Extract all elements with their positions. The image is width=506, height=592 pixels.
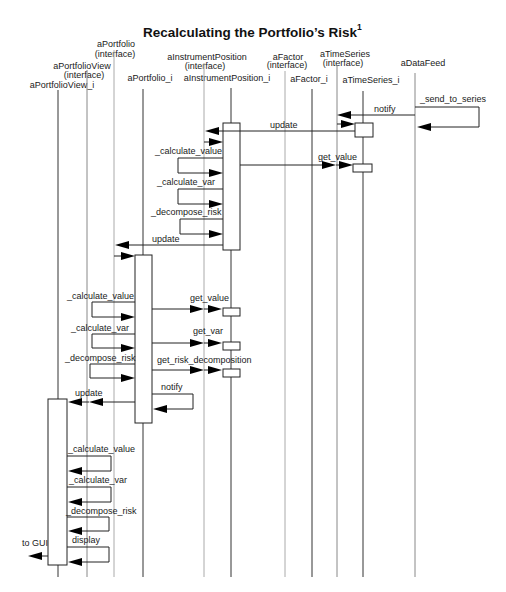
message-get-var-instrument: get_var xyxy=(152,326,223,347)
message-label: _decompose_risk xyxy=(64,353,136,363)
message-label: _calculate_value xyxy=(67,444,135,454)
message-notify-portfolio: notify xyxy=(152,382,193,413)
message-label: notify xyxy=(374,104,396,114)
message-label: _calculate_var xyxy=(68,475,127,485)
message-update-portfolioview: update xyxy=(68,388,135,406)
activation-ainstrumentposition-i xyxy=(223,123,240,250)
arrowhead-icon xyxy=(337,111,351,119)
message-label: get_var xyxy=(193,326,223,336)
arrowhead-icon xyxy=(417,123,431,131)
message-update-portfolio: update xyxy=(114,234,223,260)
message-label: _calculate_var xyxy=(156,177,215,187)
arrowhead-icon xyxy=(205,127,219,135)
message-label: _decompose_risk xyxy=(150,207,222,217)
message-label: get_risk_decomposition xyxy=(157,355,252,365)
arrowhead-icon xyxy=(68,558,82,566)
arrowhead-icon xyxy=(68,527,82,535)
lifeline-label-aportfolio: aPortfolio xyxy=(97,39,135,49)
arrowhead-icon xyxy=(209,138,223,146)
activation-atimeseries-i-notify xyxy=(355,123,373,137)
activation-ainstrumentposition-i-get-risk xyxy=(223,369,240,377)
lifeline-stereotype-aportfolioview: (interface) xyxy=(64,70,105,80)
activation-aportfolioview-i xyxy=(48,399,67,565)
arrowhead-icon xyxy=(121,252,135,260)
arrowhead-icon xyxy=(153,405,167,413)
message-label: _calculate_value xyxy=(154,146,222,156)
lifeline-stereotype-afactor: (interface) xyxy=(267,60,308,70)
message-to-gui: to GUI xyxy=(22,538,48,560)
arrowhead-icon xyxy=(322,161,336,169)
lifeline-label-ainstrumentposition-i: aInstrumentPosition_i xyxy=(184,73,271,83)
activation-aportfolio-i xyxy=(135,255,152,423)
lifeline-headers: aPortfolio (interface) aPortfolioView (i… xyxy=(30,39,445,90)
arrowhead-icon xyxy=(339,161,353,169)
arrowhead-icon xyxy=(190,366,204,374)
message-calculate-var-portfolio: _calculate_var xyxy=(70,323,135,352)
lifeline-stereotype-ainstrumentposition: (interface) xyxy=(185,61,226,71)
arrowhead-icon xyxy=(121,374,135,382)
arrowhead-icon xyxy=(68,498,82,506)
lifeline-label-afactor-i: aFactor_i xyxy=(290,74,328,84)
message-get-value-timeseries: get_value xyxy=(240,152,357,169)
message-decompose-risk-portfolio: _decompose_risk xyxy=(64,353,136,382)
message-calculate-value-view: _calculate_value xyxy=(67,444,135,475)
message-label: _send_to_series xyxy=(419,94,487,104)
message-label: update xyxy=(270,120,298,130)
arrowhead-icon xyxy=(208,339,222,347)
activation-ainstrumentposition-i-get-value xyxy=(223,308,240,316)
lifeline-stereotype-aportfolio: (interface) xyxy=(95,49,136,59)
arrowhead-icon xyxy=(208,305,222,313)
lifeline-label-adatafeed: aDataFeed xyxy=(401,58,446,68)
message-label: _calculate_var xyxy=(70,323,129,333)
arrowhead-icon xyxy=(208,366,222,374)
lifeline-label-atimeseries-i: aTimeSeries_i xyxy=(342,75,399,85)
message-calculate-value-portfolio: _calculate_value xyxy=(66,291,135,321)
message-calculate-value-instrument: _calculate_value xyxy=(154,146,223,177)
arrowhead-icon xyxy=(190,339,204,347)
message-label: update xyxy=(75,388,103,398)
arrowhead-icon xyxy=(209,230,223,238)
arrowhead-icon xyxy=(68,467,82,475)
arrowhead-icon xyxy=(121,344,135,352)
arrowhead-icon xyxy=(341,120,355,128)
message-display: display xyxy=(67,535,109,566)
message-get-value-instrument: get_value xyxy=(152,293,229,313)
message-label: to GUI xyxy=(22,538,48,548)
arrowhead-icon xyxy=(28,552,42,560)
arrowhead-icon xyxy=(190,305,204,313)
message-label: _calculate_value xyxy=(66,291,134,301)
lifeline-label-aportfolioview-i: aPortfolioView_i xyxy=(30,80,94,90)
message-calculate-var-instrument: _calculate_var xyxy=(156,177,223,208)
lifeline-stereotype-atimeseries: (interface) xyxy=(323,58,364,68)
sequence-diagram: aPortfolio (interface) aPortfolioView (i… xyxy=(0,0,506,592)
message-send-to-series: _send_to_series xyxy=(415,94,487,131)
message-label: display xyxy=(72,535,101,545)
message-label: get_value xyxy=(190,293,229,303)
message-label: notify xyxy=(161,382,183,392)
arrowhead-icon xyxy=(68,398,82,406)
message-label: _decompose_risk xyxy=(65,506,137,516)
arrowhead-icon xyxy=(121,313,135,321)
arrowhead-icon xyxy=(115,241,129,249)
message-calculate-var-view: _calculate_var xyxy=(67,475,127,506)
activation-ainstrumentposition-i-get-var xyxy=(223,342,240,350)
activation-atimeseries-i-get-value xyxy=(353,164,372,172)
lifeline-label-aportfolio-i: aPortfolio_i xyxy=(127,73,172,83)
arrowhead-icon xyxy=(89,398,103,406)
message-label: update xyxy=(152,234,180,244)
arrowhead-icon xyxy=(209,169,223,177)
message-notify-timeseries: notify xyxy=(337,104,415,128)
message-label: get_value xyxy=(318,152,357,162)
message-decompose-risk-view: _decompose_risk xyxy=(65,506,137,535)
